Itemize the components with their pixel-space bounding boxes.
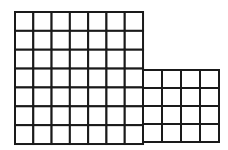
grid-cell — [143, 106, 162, 124]
grid-cell — [181, 124, 200, 142]
grid-cell — [70, 12, 88, 31]
grid-cell — [15, 106, 33, 125]
grid-cell — [70, 87, 88, 106]
grid-cell — [125, 50, 143, 69]
grid-cell — [70, 69, 88, 88]
grid-cell — [15, 125, 33, 144]
grid-cell — [52, 50, 70, 69]
grid-cell — [15, 87, 33, 106]
grid-cell — [33, 69, 51, 88]
grid-cell — [70, 50, 88, 69]
grid-diagram — [0, 0, 228, 150]
grid-cell — [15, 50, 33, 69]
grid-cell — [52, 69, 70, 88]
grid-cell — [70, 31, 88, 50]
grid-cell — [33, 12, 51, 31]
grid-cell — [106, 31, 124, 50]
grid-cell — [88, 106, 106, 125]
grid-cell — [162, 88, 181, 106]
grid-cell — [15, 69, 33, 88]
grid-cell — [162, 124, 181, 142]
grid-cell — [33, 31, 51, 50]
grid-cell — [88, 87, 106, 106]
grid-cell — [181, 70, 200, 88]
grid-cell — [70, 106, 88, 125]
grid-cell — [125, 87, 143, 106]
grid-cell — [106, 50, 124, 69]
grid-cell — [70, 125, 88, 144]
grid-cell — [106, 12, 124, 31]
grid-cell — [200, 70, 219, 88]
large-grid — [15, 12, 143, 144]
grid-cell — [143, 124, 162, 142]
grid-cell — [88, 125, 106, 144]
grid-cell — [125, 12, 143, 31]
grid-cell — [52, 106, 70, 125]
grid-cell — [125, 31, 143, 50]
grid-cell — [52, 12, 70, 31]
grid-cell — [181, 88, 200, 106]
grid-cell — [125, 125, 143, 144]
grid-cell — [33, 125, 51, 144]
grid-cell — [33, 87, 51, 106]
grid-cell — [88, 31, 106, 50]
grid-cell — [106, 106, 124, 125]
grid-cell — [125, 106, 143, 125]
small-grid — [143, 70, 219, 142]
grid-cell — [52, 87, 70, 106]
grid-cell — [88, 50, 106, 69]
grid-cell — [125, 69, 143, 88]
grid-cell — [33, 106, 51, 125]
grid-cell — [162, 70, 181, 88]
grid-cell — [33, 50, 51, 69]
grid-cell — [106, 87, 124, 106]
grid-cell — [106, 125, 124, 144]
grid-cell — [200, 106, 219, 124]
grid-cell — [52, 31, 70, 50]
grid-cell — [143, 70, 162, 88]
grid-cell — [162, 106, 181, 124]
grid-cell — [106, 69, 124, 88]
grid-cell — [52, 125, 70, 144]
grid-cell — [200, 88, 219, 106]
grid-cell — [88, 69, 106, 88]
grid-cell — [15, 31, 33, 50]
grid-cell — [181, 106, 200, 124]
grid-cell — [15, 12, 33, 31]
grid-cell — [88, 12, 106, 31]
grid-cell — [200, 124, 219, 142]
grid-cell — [143, 88, 162, 106]
